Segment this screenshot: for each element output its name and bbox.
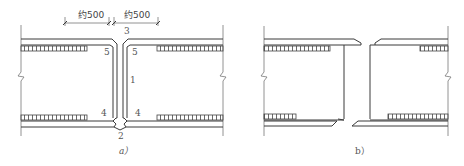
- label-1: 1: [130, 76, 136, 85]
- panel-b-caption: b）: [355, 147, 370, 156]
- dimension-label-left: 约500: [78, 11, 104, 20]
- label-5-right: 5: [132, 48, 138, 57]
- label-4-right: 4: [135, 109, 141, 118]
- label-4-left: 4: [101, 109, 107, 118]
- dimension-label-right: 约500: [124, 11, 150, 20]
- label-3: 3: [124, 27, 130, 36]
- panel-a-drawing: [18, 17, 226, 136]
- construction-joint-diagram: [0, 0, 464, 166]
- panel-a-caption: a）: [119, 147, 133, 156]
- panel-b-drawing: [261, 26, 451, 136]
- label-5-left: 5: [104, 48, 110, 57]
- label-2: 2: [118, 132, 124, 141]
